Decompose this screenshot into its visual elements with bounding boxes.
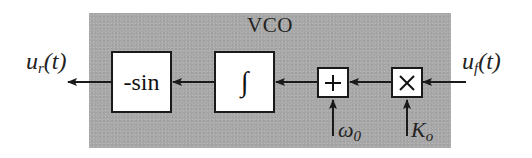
- offset-sub: 0: [354, 128, 362, 144]
- offset-base: ω: [338, 117, 354, 142]
- multiplier-block: [391, 67, 423, 98]
- offset-frequency-label: ω0: [338, 117, 361, 145]
- integral-icon: ∫: [241, 66, 249, 98]
- vco-block-diagram: VCO -sin ∫: [0, 0, 532, 158]
- neg-sin-label: -sin: [124, 69, 160, 96]
- integrator-block: ∫: [214, 51, 275, 113]
- times-icon: [397, 73, 417, 93]
- output-signal-label: ur(t): [26, 48, 67, 77]
- gain-label: Ko: [411, 117, 433, 145]
- plus-icon: [323, 73, 343, 93]
- input-signal-label: uf(t): [462, 48, 501, 77]
- input-signal-suffix: (t): [478, 48, 501, 74]
- input-signal-base: u: [462, 48, 474, 74]
- gain-sub: o: [426, 128, 434, 144]
- gain-base: K: [411, 117, 426, 142]
- output-signal-base: u: [26, 48, 38, 74]
- output-signal-suffix: (t): [44, 48, 67, 74]
- neg-sin-block: -sin: [111, 51, 172, 113]
- adder-block: [317, 67, 349, 98]
